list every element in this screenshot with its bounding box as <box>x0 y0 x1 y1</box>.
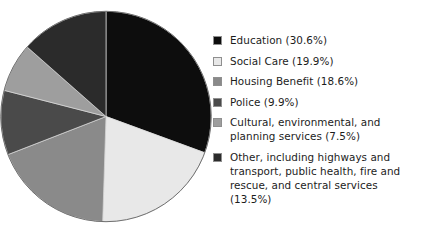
legend-item-label: Other, including highways and transport,… <box>230 150 422 206</box>
legend-item[interactable]: Housing Benefit (18.6%) <box>213 74 422 88</box>
legend-item-label: Education (30.6%) <box>230 33 327 47</box>
legend-item[interactable]: Other, including highways and transport,… <box>213 150 422 206</box>
pie-slice-group <box>1 11 211 221</box>
legend-swatch-icon <box>213 153 222 162</box>
pie-chart-figure: Education (30.6%)Social Care (19.9%)Hous… <box>0 0 422 226</box>
legend-item-label: Social Care (19.9%) <box>230 54 334 68</box>
chart-legend: Education (30.6%)Social Care (19.9%)Hous… <box>213 33 422 212</box>
legend-swatch-icon <box>213 57 222 66</box>
legend-swatch-icon <box>213 77 222 86</box>
legend-swatch-icon <box>213 98 222 107</box>
legend-item[interactable]: Cultural, environmental, and planning se… <box>213 115 422 143</box>
pie-chart-graphic <box>0 10 212 223</box>
legend-item[interactable]: Police (9.9%) <box>213 95 422 109</box>
legend-swatch-icon <box>213 36 222 45</box>
legend-item[interactable]: Social Care (19.9%) <box>213 54 422 68</box>
pie-svg <box>0 10 212 223</box>
legend-item[interactable]: Education (30.6%) <box>213 33 422 47</box>
legend-item-label: Police (9.9%) <box>230 95 299 109</box>
legend-swatch-icon <box>213 118 222 127</box>
legend-item-label: Housing Benefit (18.6%) <box>230 74 358 88</box>
legend-item-label: Cultural, environmental, and planning se… <box>230 115 381 143</box>
